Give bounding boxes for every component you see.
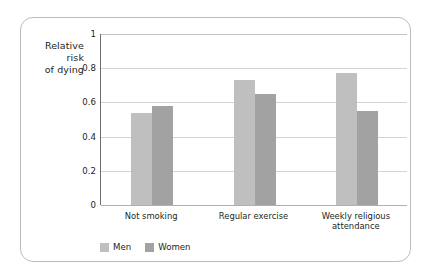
legend-swatch-women-icon: [145, 243, 154, 252]
y-tick-label-0.2: 0.2: [70, 166, 96, 176]
bar-women-group-1[interactable]: [152, 106, 173, 205]
y-tick-label-0.6: 0.6: [70, 97, 96, 107]
legend-label-women: Women: [158, 242, 190, 252]
bar-men-group-3[interactable]: [336, 73, 357, 205]
legend-item-women: Women: [145, 242, 190, 252]
x-tick-label-line: Not smoking: [96, 211, 206, 221]
plot-area: [100, 34, 407, 205]
x-tick-label-line: Weekly religious: [301, 211, 411, 221]
x-tick-label-group-1: Not smoking: [96, 211, 206, 221]
chart-legend: Men Women: [100, 242, 191, 252]
y-tick-label-0.8: 0.8: [70, 63, 96, 73]
chart-figure: Relative risk of dying 00.20.40.60.81 No…: [0, 0, 433, 278]
x-tick-label-group-2: Regular exercise: [199, 211, 309, 221]
gridline-0.8: [101, 68, 407, 69]
legend-item-men: Men: [100, 242, 131, 252]
gridline-0: [101, 205, 407, 206]
legend-label-men: Men: [113, 242, 131, 252]
y-axis-title-line-1: Relative: [28, 40, 84, 52]
x-tick-label-line: attendance: [301, 221, 411, 231]
y-tick-label-1: 1: [70, 29, 96, 39]
bar-men-group-1[interactable]: [131, 113, 152, 205]
x-tick-label-group-3: Weekly religiousattendance: [301, 211, 411, 232]
gridline-1: [101, 34, 407, 35]
bar-women-group-2[interactable]: [255, 94, 276, 205]
y-tick-label-0.4: 0.4: [70, 132, 96, 142]
x-tick-label-line: Regular exercise: [199, 211, 309, 221]
y-tick-label-0: 0: [70, 200, 96, 210]
bar-women-group-3[interactable]: [357, 111, 378, 205]
bar-men-group-2[interactable]: [234, 80, 255, 205]
legend-swatch-men-icon: [100, 243, 109, 252]
